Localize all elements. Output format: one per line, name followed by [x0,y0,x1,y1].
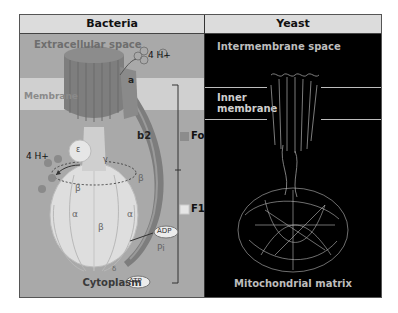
beta-label-right: β [138,173,144,183]
proton-top-label: 4 H+ [148,50,171,60]
cytoplasm-label: Cytoplasm [20,277,204,288]
atp-synthase-figure: Bacteria Extracellular space Membrane 4 … [19,14,382,298]
proton-left-label: 4 H+ [26,151,49,161]
bacteria-header: Bacteria [20,15,204,34]
bacteria-panel: Bacteria Extracellular space Membrane 4 … [20,15,205,297]
alpha-label-1: α [72,209,78,219]
f1-head [50,161,138,271]
pi-label: Pi [157,243,165,253]
fo-legend-label: Fo [191,130,204,141]
fo-legend-swatch [180,132,189,141]
yeast-panel: Yeast Intermembrane space Inner membrane… [205,15,381,297]
delta-label: δ [112,265,116,273]
c-ring [64,46,124,122]
alpha-label-2: α [127,209,133,219]
epsilon-label: ε [76,145,80,154]
gamma-label: γ [103,155,108,164]
membrane-label: Membrane [24,91,78,101]
yeast-atp-synthase-structure [205,15,382,299]
beta-label-left: β [75,183,81,193]
adp-label: ADP [157,227,171,235]
a-subunit-label: a [128,75,134,85]
mitochondrial-matrix-label: Mitochondrial matrix [205,278,381,289]
b2-label: b2 [137,130,151,141]
f1-legend-swatch [180,205,189,214]
beta-label-center: β [98,222,104,232]
extracellular-label: Extracellular space [34,39,142,50]
f1-legend-label: F1 [191,203,205,214]
